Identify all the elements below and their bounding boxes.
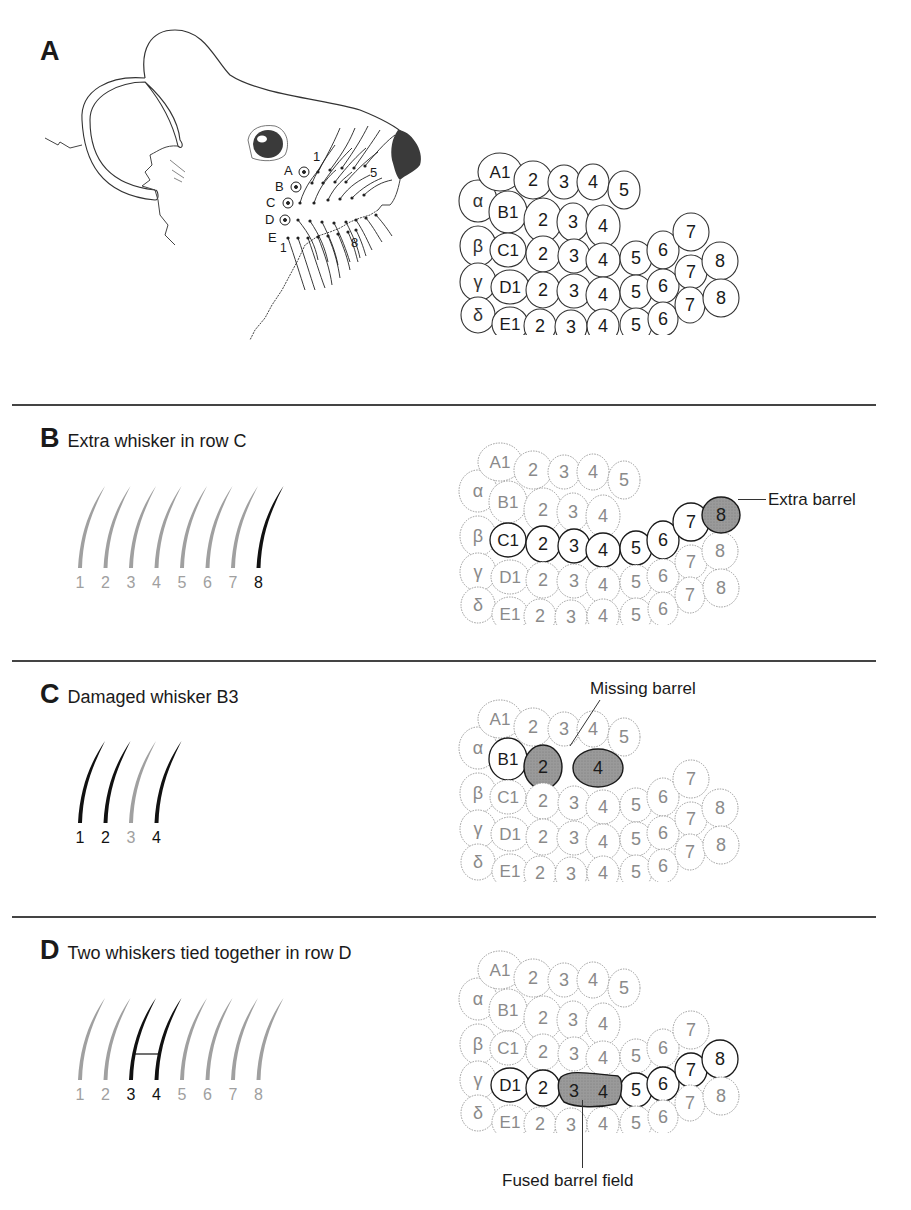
barrel-map-d: αβγδA12345B1234C1234567D125678E123456783… [458, 948, 758, 1133]
svg-text:2: 2 [528, 717, 538, 737]
barrel-b2: 2 [524, 198, 562, 242]
svg-text:4: 4 [598, 797, 608, 817]
svg-text:3: 3 [569, 828, 579, 848]
svg-text:5: 5 [631, 829, 641, 849]
barrel-b1: B1 [489, 989, 527, 1031]
svg-text:8: 8 [716, 505, 726, 525]
barrel-b1: B1 [489, 738, 527, 780]
barrel-e1: E1 [492, 854, 528, 882]
barrel-e3: 3 [555, 310, 587, 335]
svg-text:5: 5 [631, 315, 641, 335]
svg-text:6: 6 [658, 276, 668, 296]
svg-text:6: 6 [658, 240, 668, 260]
svg-text:6: 6 [658, 1107, 668, 1127]
svg-text:3: 3 [569, 571, 579, 591]
barrel-d4: 4 [586, 567, 620, 603]
svg-text:8: 8 [715, 798, 725, 818]
barrel-e2: 2 [524, 309, 556, 335]
svg-text:2: 2 [538, 1042, 548, 1062]
panel-d-header: D Two whiskers tied together in row D [40, 937, 352, 964]
fused-barrel-annotation: Fused barrel field [502, 1172, 633, 1189]
svg-text:3: 3 [569, 793, 579, 813]
svg-text:β: β [473, 526, 483, 546]
arc-label-a5: 5 [370, 166, 377, 179]
barrel-e4: 4 [587, 1107, 619, 1133]
barrel-d8: 8 [702, 1040, 738, 1078]
barrel-b3: 3 [557, 203, 589, 241]
barrel-e6: 6 [648, 1100, 678, 1133]
extra-barrel-leader [738, 499, 766, 500]
svg-text:5: 5 [631, 1113, 641, 1133]
svg-text:2: 2 [538, 534, 548, 554]
svg-text:3: 3 [566, 1115, 576, 1133]
svg-text:3: 3 [568, 212, 578, 232]
barrel-c1: C1 [490, 523, 526, 557]
svg-text:7: 7 [686, 1060, 696, 1080]
svg-text:2: 2 [538, 280, 548, 300]
svg-text:5: 5 [619, 978, 629, 998]
svg-text:4: 4 [598, 316, 608, 335]
svg-text:5: 5 [619, 727, 629, 747]
row-label-c: C [266, 196, 275, 209]
whisker-label: 4 [152, 574, 161, 591]
svg-text:7: 7 [686, 262, 696, 282]
barrel-d3: 3 [557, 821, 591, 855]
svg-text:7: 7 [685, 585, 695, 605]
barrel-a3: 3 [548, 165, 580, 199]
barrel-b1: B1 [489, 191, 527, 233]
row-label-b: B [275, 180, 284, 193]
barrel-d1: D1 [491, 560, 529, 594]
barrel-e4: 4 [587, 309, 619, 335]
svg-text:5: 5 [631, 538, 641, 558]
barrel-straddler: γ [460, 1061, 496, 1099]
svg-text:δ: δ [473, 305, 483, 325]
svg-text:6: 6 [658, 856, 668, 876]
svg-text:7: 7 [686, 222, 696, 242]
panel-b-header: B Extra whisker in row C [40, 425, 247, 452]
whisker-label: 8 [254, 574, 263, 591]
svg-text:α: α [473, 481, 483, 501]
barrel-c1: C1 [490, 1031, 526, 1065]
svg-text:D1: D1 [499, 278, 521, 297]
barrel-e8: 8 [703, 279, 739, 317]
barrel-b4-enlarged: 4 [573, 749, 623, 787]
svg-text:5: 5 [631, 862, 641, 882]
svg-text:γ: γ [474, 562, 483, 582]
barrel-straddler: γ [460, 263, 496, 301]
whisker-label: 8 [254, 1086, 263, 1103]
svg-text:3: 3 [559, 970, 569, 990]
whisker-label: 2 [101, 1086, 110, 1103]
whisker-8: 8 [254, 998, 283, 1103]
extra-barrel-annotation: Extra barrel [768, 491, 856, 508]
svg-text:3: 3 [569, 536, 579, 556]
svg-text:β: β [473, 236, 483, 256]
svg-text:3: 3 [566, 317, 576, 335]
svg-text:3: 3 [566, 864, 576, 882]
barrel-e1: E1 [492, 1105, 528, 1133]
missing-barrel-leader [560, 698, 610, 748]
whisker-label: 2 [101, 574, 110, 591]
panel-d-label: D [40, 937, 60, 964]
svg-text:7: 7 [686, 552, 696, 572]
svg-text:B1: B1 [498, 493, 519, 512]
barrel-c2: 2 [526, 236, 560, 272]
barrel-d4: 4 [586, 824, 620, 860]
barrel-d6: 6 [647, 1067, 679, 1101]
svg-text:E1: E1 [500, 605, 521, 624]
svg-text:2: 2 [538, 210, 548, 230]
svg-text:γ: γ [474, 272, 483, 292]
barrel-d5: 5 [620, 275, 652, 309]
whisker-label: 1 [76, 574, 85, 591]
svg-text:β: β [473, 783, 483, 803]
svg-text:2: 2 [538, 500, 548, 520]
panel-c-header: C Damaged whisker B3 [40, 681, 239, 708]
svg-text:B1: B1 [498, 203, 519, 222]
row-label-a: A [284, 164, 293, 177]
svg-text:D1: D1 [499, 568, 521, 587]
barrel-a2: 2 [514, 708, 552, 746]
svg-text:δ: δ [473, 595, 483, 615]
barrel-c3: 3 [558, 1037, 590, 1071]
barrel-e7: 7 [675, 1085, 705, 1121]
svg-text:4: 4 [598, 540, 608, 560]
svg-text:2: 2 [538, 1078, 548, 1098]
